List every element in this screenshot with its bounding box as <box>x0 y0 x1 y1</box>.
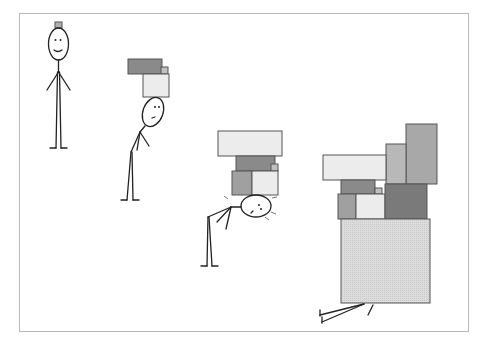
box <box>338 194 356 219</box>
box <box>323 155 386 180</box>
figure-3-straining <box>201 131 282 266</box>
head-icon <box>49 28 69 60</box>
box <box>341 180 375 194</box>
box <box>375 188 382 194</box>
box <box>232 171 252 195</box>
box <box>356 194 385 219</box>
box <box>128 59 162 74</box>
box <box>385 184 427 219</box>
tiny-box <box>55 22 62 28</box>
head-icon <box>241 195 271 217</box>
figure-2-carrying <box>121 59 169 200</box>
box <box>218 131 282 156</box>
head-icon <box>138 94 167 129</box>
box <box>406 124 437 184</box>
box <box>236 156 275 171</box>
box <box>161 67 168 74</box>
figure-4-crushed <box>320 124 437 323</box>
box <box>143 74 169 97</box>
figure-1-standing <box>47 22 70 148</box>
box <box>252 171 278 195</box>
box <box>271 164 278 171</box>
cartoon-illustration <box>0 0 481 344</box>
box <box>386 144 406 184</box>
